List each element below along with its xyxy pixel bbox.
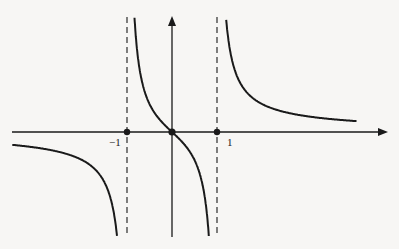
function-graph: −1 1 — [0, 0, 399, 249]
point-origin — [168, 128, 175, 135]
point-neg-one — [124, 129, 130, 135]
graph-canvas — [0, 0, 399, 249]
tick-label-one: 1 — [227, 136, 233, 148]
curve-right-branch — [226, 20, 356, 121]
x-axis-arrow-icon — [378, 128, 388, 136]
tick-label-neg-one: −1 — [109, 136, 121, 148]
curve-left-branch — [12, 145, 117, 236]
y-axis-arrow-icon — [168, 16, 176, 26]
point-one — [214, 129, 220, 135]
